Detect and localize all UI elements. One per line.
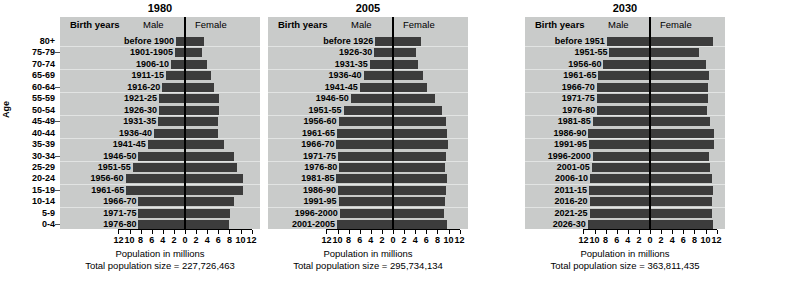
pyramid-row: 1946-50 <box>60 151 260 162</box>
bar-female <box>393 220 447 229</box>
bar-male <box>609 48 650 57</box>
pyramid-row: 1936-40 <box>268 70 468 81</box>
bar-male <box>603 60 650 69</box>
bar-female <box>650 106 707 115</box>
birth-years-label: 1981-85 <box>301 173 334 184</box>
birth-years-label: 1936-40 <box>119 128 152 139</box>
pyramid-row: 1976-80 <box>268 162 468 173</box>
bar-male <box>154 129 185 138</box>
x-axis-tick <box>174 230 175 234</box>
birth-years-label: 1961-65 <box>302 128 335 139</box>
bar-male <box>166 71 185 80</box>
bar-female <box>185 152 234 161</box>
bar-female <box>650 94 708 103</box>
bar-female <box>650 37 713 46</box>
bar-female <box>650 174 712 183</box>
bar-male <box>375 37 393 46</box>
bar-male <box>338 186 393 195</box>
bar-male <box>589 186 650 195</box>
column-header-birth-years: Birth years <box>70 19 120 30</box>
column-header-female: Female <box>660 19 692 30</box>
birth-years-label: 1971-75 <box>103 208 136 219</box>
population-pyramid-figure: Age 80+75-7970-7465-6960-6455-5950-5445-… <box>0 0 785 288</box>
pyramid-row: 1976-80 <box>60 219 260 229</box>
plot-area: Birth yearsMaleFemalebefore 19511951-551… <box>525 17 725 229</box>
bar-male <box>590 174 650 183</box>
bar-male <box>597 106 650 115</box>
birth-years-label: 1946-50 <box>103 151 136 162</box>
birth-years-label: 1971-75 <box>303 151 336 162</box>
x-axis-tick <box>661 230 662 234</box>
birth-years-label: 1926-30 <box>339 47 372 58</box>
birth-years-label: 1951-55 <box>574 47 607 58</box>
birth-years-label: 2001-05 <box>557 162 590 173</box>
x-axis-tick <box>360 230 361 234</box>
birth-years-label: 1926-30 <box>124 105 157 116</box>
age-label: 5-9 <box>42 208 55 218</box>
pyramid-row: 1986-90 <box>268 185 468 196</box>
x-axis-tick <box>706 230 707 234</box>
birth-years-label: 1936-40 <box>329 70 362 81</box>
column-header-birth-years: Birth years <box>278 19 328 30</box>
x-axis-tick <box>371 230 372 234</box>
pyramid-row: 1931-35 <box>60 116 260 127</box>
bar-male <box>138 209 185 218</box>
age-label: 35-39 <box>32 139 55 149</box>
birth-years-label: 1996-2000 <box>548 151 591 162</box>
bar-female <box>185 37 204 46</box>
pyramid-row: 1991-95 <box>268 196 468 207</box>
pyramid-row: 2006-10 <box>525 173 725 184</box>
bar-female <box>393 140 448 149</box>
x-axis-label: Population in millions <box>268 248 468 259</box>
bar-male <box>133 163 185 172</box>
bar-female <box>393 152 446 161</box>
birth-years-label: 1966-70 <box>562 82 595 93</box>
bar-male <box>338 152 393 161</box>
x-axis-tick <box>196 230 197 234</box>
pyramid-row: 1936-40 <box>60 128 260 139</box>
pyramid-row: 2001-05 <box>525 162 725 173</box>
bar-male <box>158 117 185 126</box>
pyramid-row: 1956-60 <box>525 59 725 70</box>
x-axis-tick <box>437 230 438 234</box>
pyramid-row: 1966-70 <box>268 139 468 150</box>
birth-years-label: 1971-75 <box>562 93 595 104</box>
bar-male <box>351 94 393 103</box>
center-axis-line <box>392 17 393 229</box>
pyramid-row: 1996-2000 <box>268 208 468 219</box>
age-label: 45-49 <box>32 116 55 126</box>
birth-years-label: 1956-60 <box>304 116 337 127</box>
pyramid-row: 1966-70 <box>60 196 260 207</box>
pyramid-panel-2005: 2005Birth yearsMaleFemalebefore 19261926… <box>268 0 468 288</box>
birth-years-label: 1956-60 <box>568 59 601 70</box>
birth-years-label: 2016-20 <box>554 196 587 207</box>
birth-years-label: 2011-15 <box>554 185 587 196</box>
x-axis-tick <box>583 230 584 234</box>
birth-years-label: before 1926 <box>323 36 373 47</box>
birth-years-label: 1961-65 <box>563 70 596 81</box>
bar-female <box>393 197 445 206</box>
pyramid-row: before 1926 <box>268 36 468 47</box>
x-axis-tick <box>349 230 350 234</box>
pyramid-row: 1956-60 <box>60 173 260 184</box>
x-axis-tick <box>617 230 618 234</box>
age-label: 30-34 <box>32 151 55 161</box>
bar-female <box>393 83 427 92</box>
age-label: 70-74 <box>32 59 55 69</box>
birth-years-label: 1921-25 <box>124 93 157 104</box>
bar-female <box>650 140 714 149</box>
bar-female <box>185 140 224 149</box>
bar-female <box>185 163 237 172</box>
pyramid-row: 2021-25 <box>525 208 725 219</box>
x-axis-tick <box>241 230 242 234</box>
bar-female <box>185 129 218 138</box>
x-axis-tick-label: 12 <box>452 235 468 245</box>
center-axis-line <box>184 17 185 229</box>
bar-female <box>393 48 416 57</box>
birth-years-label: 1966-70 <box>103 196 136 207</box>
bar-male <box>590 209 650 218</box>
birth-years-label: 1951-55 <box>98 162 131 173</box>
age-label: 20-24 <box>32 173 55 183</box>
pyramid-panel-2030: 2030Birth yearsMaleFemalebefore 19511951… <box>525 0 725 288</box>
birth-years-label: 1946-50 <box>316 93 349 104</box>
